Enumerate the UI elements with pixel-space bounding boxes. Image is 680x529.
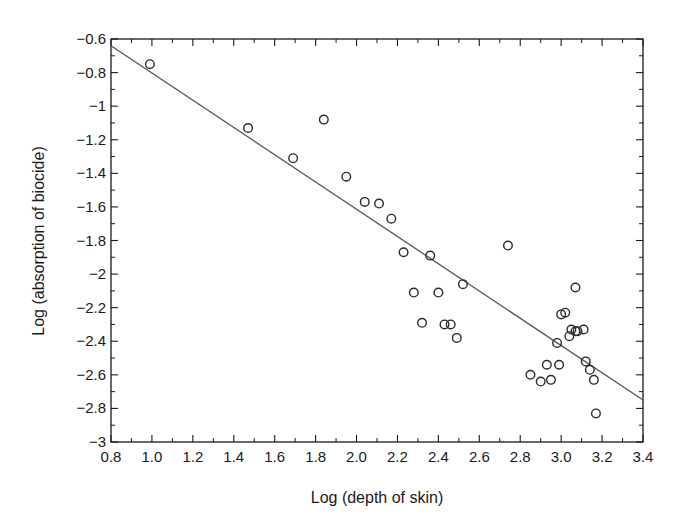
x-tick-label: 3.2	[592, 448, 613, 465]
data-point	[504, 241, 513, 250]
data-point	[360, 198, 369, 207]
x-tick-label: 1.6	[264, 448, 285, 465]
x-tick-label: 3.0	[551, 448, 572, 465]
y-tick-label: −2	[89, 265, 106, 282]
data-point	[434, 288, 443, 297]
data-point	[375, 199, 384, 208]
x-tick-label: 3.4	[633, 448, 654, 465]
x-tick-label: 0.8	[101, 448, 122, 465]
data-point	[555, 360, 564, 369]
data-point	[446, 320, 455, 329]
data-point	[418, 318, 427, 327]
x-tick-label: 2.6	[469, 448, 490, 465]
y-tick-label: −3	[89, 433, 106, 450]
x-tick-label: 2.4	[428, 448, 449, 465]
y-tick-label: −1.6	[76, 198, 106, 215]
x-tick-label: 1.8	[305, 448, 326, 465]
y-tick-label: −1.2	[76, 131, 106, 148]
data-point	[146, 60, 155, 69]
regression-line	[111, 46, 643, 400]
data-point	[459, 280, 468, 289]
y-axis-title: Log (absorption of biocide)	[30, 146, 47, 335]
scatter-chart: 0.81.01.21.41.61.82.02.22.42.62.83.03.23…	[0, 0, 680, 529]
data-point	[590, 376, 599, 385]
data-point	[399, 248, 408, 257]
x-tick-label: 2.0	[346, 448, 367, 465]
y-tick-label: −2.4	[76, 332, 106, 349]
x-axis-title: Log (depth of skin)	[311, 489, 444, 506]
x-tick-label: 1.0	[141, 448, 162, 465]
y-axis: −0.6−0.8−1−1.2−1.4−1.6−1.8−2−2.2−2.4−2.6…	[76, 30, 643, 450]
data-point	[579, 325, 588, 334]
data-point	[244, 124, 253, 133]
data-point	[526, 371, 535, 380]
x-tick-label: 2.8	[510, 448, 531, 465]
data-point	[289, 154, 298, 163]
y-tick-label: −0.8	[76, 64, 106, 81]
data-point	[586, 365, 595, 374]
y-tick-label: −2.8	[76, 399, 106, 416]
data-point	[571, 283, 580, 292]
data-point	[320, 115, 329, 124]
x-tick-label: 1.2	[182, 448, 203, 465]
y-tick-label: −1.4	[76, 164, 106, 181]
y-tick-label: −2.2	[76, 299, 106, 316]
y-tick-label: −1.8	[76, 232, 106, 249]
x-tick-label: 2.2	[387, 448, 408, 465]
y-tick-label: −1	[89, 97, 106, 114]
y-tick-label: −0.6	[76, 30, 106, 47]
x-axis: 0.81.01.21.41.61.82.02.22.42.62.83.03.23…	[101, 39, 654, 465]
data-point	[342, 172, 351, 181]
data-point	[536, 377, 545, 386]
data-point	[592, 409, 601, 418]
data-point	[453, 334, 462, 343]
x-tick-label: 1.4	[223, 448, 244, 465]
data-point	[543, 360, 552, 369]
data-point	[547, 376, 556, 385]
data-point	[387, 214, 396, 223]
y-tick-label: −2.6	[76, 366, 106, 383]
data-point	[410, 288, 419, 297]
